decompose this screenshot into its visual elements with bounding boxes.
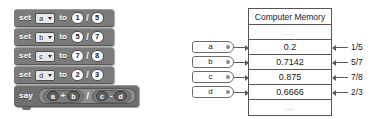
memory-cell-top-ellipsis: ... bbox=[249, 25, 331, 40]
pointer-arrow-icon-a bbox=[234, 47, 248, 48]
variable-oval-a[interactable]: a bbox=[47, 91, 59, 101]
divide-symbol: / bbox=[86, 52, 89, 61]
variable-dropdown-value: b bbox=[39, 34, 43, 41]
pointer-arrow-icon-d bbox=[234, 92, 248, 93]
fraction-label-b: 5/7 bbox=[351, 58, 363, 67]
say-keyword-label: say bbox=[19, 92, 33, 100]
variable-tag-c: c bbox=[192, 71, 234, 83]
annotation-arrow-icon-d bbox=[333, 92, 348, 93]
block-stack-notch bbox=[22, 107, 31, 110]
numerator-input-a[interactable]: 1 bbox=[71, 12, 84, 24]
denominator-input-b[interactable]: 7 bbox=[91, 31, 104, 43]
to-keyword-label: to bbox=[59, 33, 67, 41]
plus-operator-label: + bbox=[61, 92, 65, 100]
set-keyword-label: set bbox=[19, 33, 31, 41]
variable-dropdown-value: c bbox=[39, 53, 43, 60]
variable-tag-label: b bbox=[193, 58, 226, 66]
variable-tag-d: d bbox=[192, 86, 234, 98]
chevron-down-icon bbox=[48, 17, 52, 20]
denominator-input-d[interactable]: 3 bbox=[91, 69, 104, 81]
variable-dropdown-value: a bbox=[39, 15, 43, 22]
pointer-arrow-icon-c bbox=[234, 77, 248, 78]
to-keyword-label: to bbox=[59, 71, 67, 79]
variable-dropdown-value: d bbox=[39, 72, 43, 79]
chevron-down-icon bbox=[48, 36, 52, 39]
variable-dropdown-c[interactable]: c bbox=[35, 51, 55, 62]
to-keyword-label: to bbox=[59, 52, 67, 60]
computer-memory-diagram: Computer Memory ... 0.2 0.7142 0.875 0.6… bbox=[188, 0, 376, 119]
divide-symbol: / bbox=[86, 71, 89, 80]
memory-cell-value-c: 0.875 bbox=[249, 70, 331, 85]
memory-cell-value-b: 0.7142 bbox=[249, 55, 331, 70]
fraction-label-c: 7/8 bbox=[351, 73, 363, 82]
memory-cell-value-d: 0.6666 bbox=[249, 85, 331, 100]
memory-table: Computer Memory ... 0.2 0.7142 0.875 0.6… bbox=[248, 8, 332, 116]
pointer-dot-icon bbox=[226, 60, 230, 64]
divide-operator-label: / bbox=[87, 92, 90, 101]
set-block-b[interactable]: set b to 5 / 7 bbox=[14, 28, 114, 46]
variable-oval-b[interactable]: b bbox=[67, 91, 79, 101]
divide-symbol: / bbox=[86, 14, 89, 23]
set-block-d[interactable]: set d to 2 / 3 bbox=[14, 66, 114, 84]
set-block-a[interactable]: set a to 1 / 5 bbox=[14, 9, 114, 27]
numerator-input-b[interactable]: 5 bbox=[71, 31, 84, 43]
say-block[interactable]: say a + b / c - d bbox=[14, 85, 139, 107]
scratch-blocks-panel: set a to 1 / 5 set b to 5 / bbox=[0, 0, 188, 119]
annotation-arrow-icon-a bbox=[333, 47, 348, 48]
variable-dropdown-b[interactable]: b bbox=[35, 32, 55, 43]
pointer-dot-icon bbox=[226, 45, 230, 49]
denominator-input-a[interactable]: 5 bbox=[91, 12, 104, 24]
set-keyword-label: set bbox=[19, 71, 31, 79]
minus-operator-label: - bbox=[110, 92, 113, 100]
variable-dropdown-a[interactable]: a bbox=[35, 13, 55, 24]
numerator-input-c[interactable]: 7 bbox=[71, 50, 84, 62]
pointer-dot-icon bbox=[226, 90, 230, 94]
variable-oval-c[interactable]: c bbox=[96, 91, 108, 101]
subtraction-reporter-block[interactable]: c - d bbox=[92, 90, 131, 103]
variable-tag-label: c bbox=[193, 73, 226, 81]
division-reporter-block[interactable]: a + b / c - d bbox=[38, 88, 136, 104]
screenshot-root: set a to 1 / 5 set b to 5 / bbox=[0, 0, 376, 119]
set-block-c[interactable]: set c to 7 / 8 bbox=[14, 47, 114, 65]
annotation-arrow-icon-c bbox=[333, 77, 348, 78]
variable-tag-b: b bbox=[192, 56, 234, 68]
memory-cell-bottom-ellipsis: ... bbox=[249, 100, 331, 115]
fraction-label-a: 1/5 bbox=[351, 43, 363, 52]
set-keyword-label: set bbox=[19, 52, 31, 60]
divide-symbol: / bbox=[86, 33, 89, 42]
numerator-input-d[interactable]: 2 bbox=[71, 69, 84, 81]
memory-cell-value-a: 0.2 bbox=[249, 40, 331, 55]
pointer-dot-icon bbox=[226, 75, 230, 79]
variable-oval-d[interactable]: d bbox=[114, 91, 126, 101]
variable-tag-label: a bbox=[193, 43, 226, 51]
annotation-arrow-icon-b bbox=[333, 62, 348, 63]
addition-reporter-block[interactable]: a + b bbox=[43, 90, 84, 103]
set-keyword-label: set bbox=[19, 14, 31, 22]
pointer-arrow-icon-b bbox=[234, 62, 248, 63]
variable-tag-a: a bbox=[192, 41, 234, 53]
memory-table-title: Computer Memory bbox=[249, 9, 331, 25]
fraction-label-d: 2/3 bbox=[351, 88, 363, 97]
to-keyword-label: to bbox=[59, 14, 67, 22]
variable-dropdown-d[interactable]: d bbox=[35, 70, 55, 81]
denominator-input-c[interactable]: 8 bbox=[91, 50, 104, 62]
variable-tag-label: d bbox=[193, 88, 226, 96]
chevron-down-icon bbox=[48, 55, 52, 58]
chevron-down-icon bbox=[48, 74, 52, 77]
